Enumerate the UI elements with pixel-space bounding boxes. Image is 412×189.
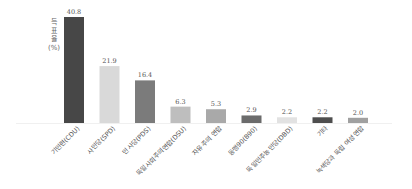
category-tick-label: 기민련(CDU)	[49, 124, 82, 157]
category-tick-label: 동맹90(B90)	[226, 124, 259, 157]
data-label: 5.3	[211, 100, 221, 108]
data-label: 6.3	[175, 98, 185, 106]
bar-4	[171, 107, 191, 123]
category-tick-label: 사민당(SPD)	[85, 124, 117, 156]
data-label: 16.4	[138, 71, 152, 79]
bar-6	[242, 115, 262, 123]
bar-chart: 득표율(%) 40.821.916.46.35.32.92.22.22.0 기민…	[0, 0, 412, 189]
data-label: 21.9	[102, 57, 116, 65]
bar-5	[206, 109, 226, 123]
data-label: 2.9	[246, 106, 256, 114]
category-tick-label: 자유주의 연합	[190, 124, 223, 157]
category-tick-label: 기타	[315, 124, 330, 139]
bar-2	[100, 66, 120, 123]
bar-8	[313, 117, 333, 123]
y-axis-label-line: 율	[51, 35, 58, 43]
data-label: 40.8	[67, 8, 81, 16]
bar-7	[277, 117, 297, 123]
y-axis-label-line: (%)	[48, 44, 60, 52]
bar-3	[135, 80, 155, 123]
y-axis-label: 득표율(%)	[48, 18, 60, 52]
data-label: 2.2	[282, 108, 292, 116]
bar-9	[348, 118, 368, 123]
y-axis-label-line: 표	[51, 27, 58, 35]
category-tick-label: 민사당(PDS)	[121, 124, 153, 156]
bar-1	[64, 17, 84, 123]
data-label: 2.2	[317, 108, 327, 116]
data-label: 2.0	[353, 109, 363, 117]
y-axis-label-line: 득	[51, 18, 58, 26]
